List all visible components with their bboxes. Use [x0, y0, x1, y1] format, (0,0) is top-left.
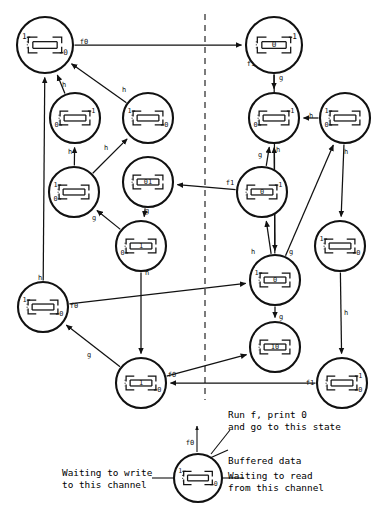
transition-label: g [289, 248, 293, 256]
state-node[interactable]: 01 [116, 221, 166, 271]
transition-label: f0 [168, 371, 176, 379]
diagram-svg: f0ghhhhhggghhhgghhf0gf0f1f1f1h 101010101… [0, 0, 387, 523]
svg-text:01: 01 [144, 178, 152, 186]
svg-text:0: 0 [254, 121, 258, 129]
transition-arrow [340, 272, 341, 353]
svg-text:1: 1 [290, 107, 294, 115]
state-node[interactable]: 10 [123, 93, 173, 143]
transition-label: g [279, 74, 283, 82]
transition-label: g [258, 151, 262, 159]
legend-read-line1: Waiting to read [228, 470, 313, 482]
legend-write-line2: to this channel [62, 479, 147, 491]
state-node[interactable]: 01 [116, 358, 166, 408]
legend-write-line1: Waiting to write [62, 467, 152, 479]
transition-label: f1 [226, 179, 234, 187]
svg-text:1: 1 [139, 242, 143, 250]
svg-text:0: 0 [157, 386, 161, 394]
transition-label: g [145, 207, 149, 215]
svg-text:1: 1 [255, 269, 259, 277]
state-node[interactable]: 10 [237, 167, 287, 217]
svg-text:1: 1 [292, 32, 297, 41]
svg-text:0: 0 [121, 249, 125, 257]
svg-text:1: 1 [358, 372, 362, 380]
svg-text:0: 0 [325, 121, 329, 129]
svg-text:1: 1 [22, 32, 27, 41]
svg-text:0: 0 [273, 276, 277, 284]
transition-arrow [43, 77, 45, 280]
svg-text:10: 10 [271, 343, 279, 351]
transition-label: h [122, 86, 126, 94]
svg-text:1: 1 [178, 467, 182, 475]
svg-text:0: 0 [358, 386, 362, 394]
transition-label: h [251, 248, 255, 256]
state-node[interactable]: 10 [50, 93, 100, 143]
transition-arrow [97, 211, 120, 230]
transition-arrow [69, 283, 245, 304]
svg-text:0: 0 [356, 249, 360, 257]
transition-label: g [92, 214, 96, 222]
transition-arrow [266, 221, 271, 254]
svg-text:0: 0 [54, 195, 58, 203]
transition-label: h [344, 148, 348, 156]
transition-label: f1 [306, 379, 314, 387]
node-layer: 10101010101010011001101010100110 [17, 17, 370, 408]
state-node[interactable]: 10 [49, 167, 99, 217]
legend-read-line2: from this channel [228, 482, 324, 494]
state-node[interactable]: 10 [249, 93, 299, 143]
svg-text:0: 0 [59, 310, 63, 318]
state-node[interactable]: 10 [250, 322, 300, 372]
legend-edge-label: f0 [186, 439, 194, 447]
transition-label: h [104, 144, 108, 152]
svg-text:0: 0 [55, 121, 59, 129]
legend-state-node: 10 [174, 454, 222, 502]
state-node[interactable]: 01 [123, 157, 173, 207]
svg-text:0: 0 [63, 48, 68, 57]
transition-label: h [276, 146, 280, 154]
svg-text:0: 0 [260, 188, 264, 196]
legend-run-line1: Run f, print 0 [228, 409, 307, 421]
transition-label: f0 [80, 38, 88, 46]
svg-text:1: 1 [128, 107, 132, 115]
svg-text:1: 1 [139, 379, 143, 387]
transition-arrow [167, 355, 247, 376]
transition-label: h [344, 309, 348, 317]
transition-label: h [38, 274, 42, 282]
svg-text:1: 1 [320, 235, 324, 243]
transition-label: f0 [70, 302, 78, 310]
transition-arrow [93, 139, 127, 173]
diagram-canvas: f0ghhhhhggghhhgghhf0gf0f1f1f1h 101010101… [0, 0, 387, 523]
svg-text:1: 1 [278, 181, 282, 189]
svg-text:0: 0 [272, 40, 277, 49]
transition-label: g [279, 313, 283, 321]
transition-label: h [68, 148, 72, 156]
svg-text:0: 0 [164, 121, 168, 129]
svg-text:1: 1 [325, 107, 329, 115]
transition-label: h [62, 81, 66, 89]
transition-arrow [66, 325, 120, 367]
state-node[interactable]: 10 [315, 221, 365, 271]
transition-label: g [87, 351, 91, 359]
state-node[interactable]: 10 [317, 358, 367, 408]
svg-text:1: 1 [91, 107, 95, 115]
state-node[interactable]: 10 [246, 17, 302, 73]
state-node[interactable]: 10 [18, 282, 68, 332]
svg-text:0: 0 [214, 480, 218, 488]
svg-text:1: 1 [54, 181, 58, 189]
state-node[interactable]: 10 [320, 93, 370, 143]
transition-arrow [266, 147, 269, 166]
state-node[interactable]: 10 [250, 255, 300, 305]
legend-run-line2: and go to this state [228, 421, 341, 433]
legend-buffered-label: Buffered data [228, 455, 301, 467]
state-node[interactable]: 10 [17, 17, 73, 73]
svg-text:1: 1 [23, 296, 27, 304]
transition-label: h [309, 112, 313, 120]
